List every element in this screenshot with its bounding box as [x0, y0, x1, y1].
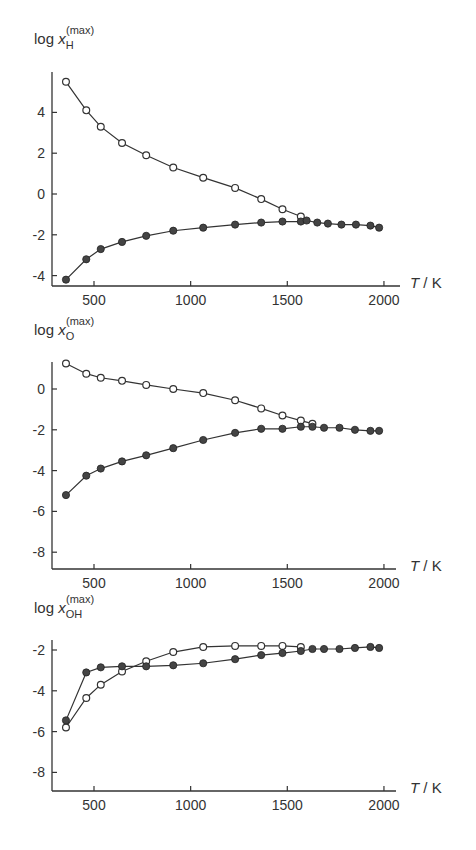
filled-circle-marker [62, 276, 69, 283]
filled-circle-marker [143, 232, 150, 239]
filled-circle-marker [83, 256, 90, 263]
filled-circle-marker [97, 664, 104, 671]
filled-circle-marker [376, 644, 383, 651]
y-tick-label: 2 [37, 145, 45, 161]
filled-circle-marker [351, 426, 358, 433]
x-tick-label: 500 [82, 575, 106, 591]
filled-circle-marker [232, 221, 239, 228]
filled-circle-marker [170, 445, 177, 452]
open-circle-marker [119, 377, 126, 384]
x-tick-label: 2000 [368, 292, 399, 308]
y-tick-label: -4 [33, 268, 46, 284]
open-circle-marker [63, 78, 70, 85]
x-tick-label: 500 [82, 797, 106, 813]
filled-circle-marker [279, 218, 286, 225]
filled-circle-marker [258, 652, 265, 659]
series-line-filled [66, 427, 379, 495]
y-tick-label: -2 [33, 227, 46, 243]
y-axis-title-superscript: (max) [66, 593, 94, 605]
open-circle-marker [232, 397, 239, 404]
filled-circle-marker [324, 220, 331, 227]
filled-circle-marker [62, 717, 69, 724]
y-tick-label: 0 [37, 381, 45, 397]
filled-circle-marker [338, 221, 345, 228]
open-circle-marker [83, 107, 90, 114]
x-tick-label: 1000 [175, 292, 206, 308]
filled-circle-marker [118, 238, 125, 245]
filled-circle-marker [200, 436, 207, 443]
open-circle-marker [119, 140, 126, 147]
open-circle-marker [97, 123, 104, 130]
open-circle-marker [97, 681, 104, 688]
x-tick-label: 1000 [175, 797, 206, 813]
filled-circle-marker [303, 217, 310, 224]
filled-circle-marker [297, 423, 304, 430]
filled-circle-marker [367, 427, 374, 434]
filled-circle-marker [314, 219, 321, 226]
filled-circle-marker [297, 647, 304, 654]
filled-circle-marker [279, 649, 286, 656]
filled-circle-marker [309, 423, 316, 430]
filled-circle-marker [336, 424, 343, 431]
x-axis-title: T / K [410, 274, 442, 291]
filled-circle-marker [352, 221, 359, 228]
x-axis-title: T / K [410, 779, 442, 796]
y-tick-label: -2 [33, 422, 46, 438]
filled-circle-marker [232, 429, 239, 436]
y-tick-label: -6 [33, 724, 46, 740]
series-line-open [66, 82, 301, 217]
y-axis-title-superscript: (max) [66, 315, 94, 327]
filled-circle-marker [258, 219, 265, 226]
filled-circle-marker [336, 645, 343, 652]
y-tick-label: -4 [33, 683, 46, 699]
open-circle-marker [279, 412, 286, 419]
open-circle-marker [200, 390, 207, 397]
x-tick-label: 1500 [272, 797, 303, 813]
open-circle-marker [279, 206, 286, 213]
x-tick-label: 2000 [368, 575, 399, 591]
filled-circle-marker [376, 427, 383, 434]
filled-circle-marker [351, 644, 358, 651]
open-circle-marker [170, 164, 177, 171]
open-circle-marker [200, 174, 207, 181]
y-tick-label: 0 [37, 186, 45, 202]
open-circle-marker [170, 386, 177, 393]
x-tick-label: 1500 [272, 292, 303, 308]
open-circle-marker [143, 152, 150, 159]
open-circle-marker [258, 405, 265, 412]
series-line-filled [66, 221, 379, 280]
filled-circle-marker [258, 425, 265, 432]
filled-circle-marker [83, 669, 90, 676]
y-tick-label: -6 [33, 503, 46, 519]
filled-circle-marker [367, 222, 374, 229]
open-circle-marker [279, 643, 286, 650]
x-tick-label: 2000 [368, 797, 399, 813]
y-tick-label: -8 [33, 764, 46, 780]
series-line-filled [66, 647, 379, 720]
chart-panel-2: 0-2-4-6-8500100015002000T / Klog xO(max) [33, 315, 442, 591]
x-tick-label: 1000 [175, 575, 206, 591]
filled-circle-marker [143, 663, 150, 670]
open-circle-marker [63, 360, 70, 367]
figure-canvas: 420-2-4500100015002000T / Klog xH(max)0-… [0, 0, 476, 850]
filled-circle-marker [200, 660, 207, 667]
filled-circle-marker [279, 425, 286, 432]
filled-circle-marker [200, 224, 207, 231]
chart-panel-3: -2-4-6-8500100015002000T / Klog xOH(max) [33, 593, 442, 813]
open-circle-marker [232, 643, 239, 650]
filled-circle-marker [143, 452, 150, 459]
y-axis-title-superscript: (max) [66, 24, 94, 36]
open-circle-marker [200, 644, 207, 651]
open-circle-marker [170, 649, 177, 656]
filled-circle-marker [97, 245, 104, 252]
chart-panel-1: 420-2-4500100015002000T / Klog xH(max) [33, 24, 442, 308]
filled-circle-marker [118, 663, 125, 670]
open-circle-marker [232, 184, 239, 191]
x-axis-title: T / K [410, 557, 442, 574]
filled-circle-marker [309, 645, 316, 652]
filled-circle-marker [97, 465, 104, 472]
filled-circle-marker [118, 458, 125, 465]
open-circle-marker [143, 382, 150, 389]
y-tick-label: 4 [37, 104, 45, 120]
open-circle-marker [97, 374, 104, 381]
